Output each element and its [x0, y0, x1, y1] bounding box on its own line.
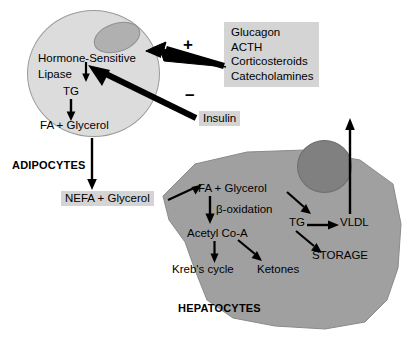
vldl-export-arrow — [342, 118, 358, 214]
hormone-catecholamines: Catecholamines — [231, 69, 313, 84]
ketones-arrow — [238, 240, 264, 264]
adipocyte-fa-glycerol-label: FA + Glycerol — [40, 119, 109, 132]
hepatocytes-title: HEPATOCYTES — [178, 302, 261, 314]
krebs-arrow — [208, 241, 221, 263]
hepatocyte-tg-label: TG — [289, 216, 305, 229]
beta-oxidation-arrow — [203, 196, 217, 224]
hormone-acth: ACTH — [231, 40, 313, 55]
hepatocyte-fa-glycerol-label: FA + Glycerol — [198, 182, 267, 195]
lipolysis-release-arrow — [84, 138, 100, 190]
tg-to-vldl-arrow — [307, 219, 339, 231]
hormone-glucagon: Glucagon — [231, 25, 313, 40]
nefa-glycerol-box: NEFA + Glycerol — [61, 191, 154, 206]
ketones-label: Ketones — [257, 263, 299, 276]
diagram-canvas: Hormone-Sensitive Lipase TG FA + Glycero… — [0, 0, 419, 351]
glycerol-to-tg-arrow — [287, 192, 313, 218]
stimulatory-hormones-box: Glucagon ACTH Corticosteroids Catecholam… — [224, 22, 319, 87]
adipocyte-tg-label: TG — [63, 85, 79, 98]
adipocytes-title: ADIPOCYTES — [12, 159, 86, 171]
insulin-label: Insulin — [199, 111, 240, 126]
hormone-corticosteroids: Corticosteroids — [231, 54, 313, 69]
acetyl-coa-label: Acetyl Co-A — [187, 227, 248, 240]
beta-oxidation-label: β-oxidation — [216, 203, 272, 216]
krebs-cycle-label: Kreb's cycle — [172, 263, 234, 276]
inhibitory-arrow — [84, 64, 198, 120]
nefa-uptake-arrow — [168, 183, 202, 203]
storage-label: STORAGE — [312, 249, 368, 262]
hormone-sensitive-lipase-line2: Lipase — [38, 68, 72, 81]
vldl-label: VLDL — [340, 216, 369, 229]
tg-to-fa-arrow — [64, 99, 78, 121]
